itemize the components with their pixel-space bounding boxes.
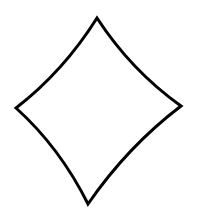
- drawing-canvas: [0, 0, 198, 223]
- diamond-outline: [16, 18, 181, 204]
- diamond-icon: [0, 0, 198, 223]
